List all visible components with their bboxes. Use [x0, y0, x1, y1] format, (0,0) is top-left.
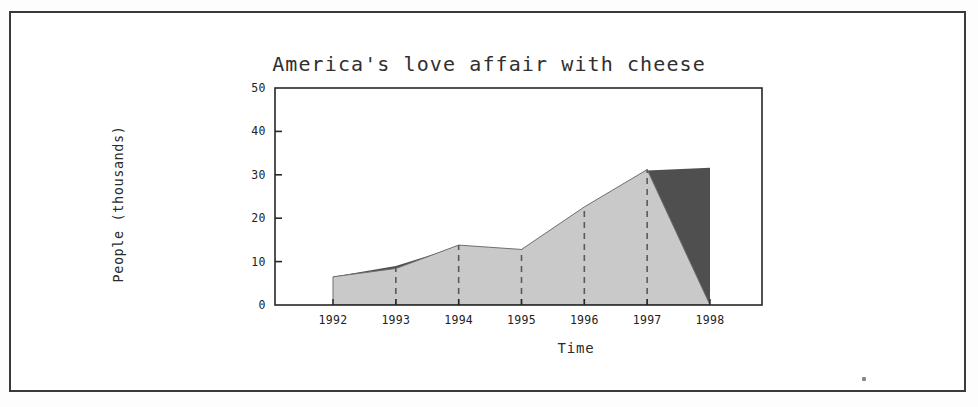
y-tick-label: 30 [251, 168, 266, 182]
y-tick-label: 20 [251, 211, 266, 225]
x-tick-label: 1995 [507, 313, 536, 327]
y-tick-label: 40 [251, 124, 266, 138]
x-tick-label: 1993 [381, 313, 410, 327]
y-tick-label: 10 [251, 255, 266, 269]
x-tick-label: 1992 [319, 313, 348, 327]
plot-area: 01020304050 1992199319941995199619971998 [0, 0, 978, 407]
x-tick-label: 1996 [570, 313, 599, 327]
x-tick-label: 1997 [633, 313, 662, 327]
y-tick-label: 50 [251, 81, 266, 95]
x-tick-label: 1998 [696, 313, 725, 327]
y-axis-ticks: 01020304050 [251, 81, 282, 312]
series-area-light [333, 170, 710, 305]
chart-figure: America's love affair with cheese People… [0, 0, 978, 407]
scanned-page: America's love affair with cheese People… [0, 0, 978, 407]
x-tick-label: 1994 [444, 313, 473, 327]
y-tick-label: 0 [259, 298, 266, 312]
